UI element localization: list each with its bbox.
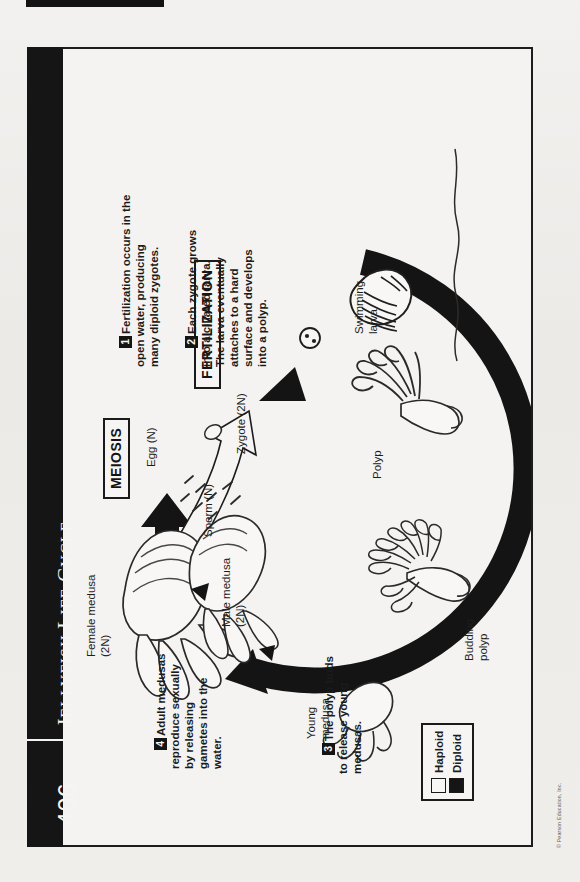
label-zygote: Zygote (2N) (235, 393, 249, 454)
legend-label-diploid: Diploid (451, 734, 463, 773)
label-young-medusa: Young medusa (305, 698, 332, 739)
gamete-release-marker-2 (259, 645, 275, 661)
step-number-4: 4 (154, 738, 167, 750)
legend-row-diploid: Diploid (449, 731, 464, 793)
haploid-swatch (431, 778, 446, 793)
step-text-2: Each zygote grows into a ciliated larva.… (186, 230, 268, 367)
polyp-illustration (352, 346, 462, 434)
label-male-medusa: Male medusa (2N) (220, 558, 247, 627)
jellyfish-life-cycle-diagram: MEIOSIS FERTILIZATION 1Fertilization occ… (63, 49, 531, 845)
label-egg: Egg (N) (145, 427, 159, 467)
fertilization-arrowhead (259, 367, 306, 401)
zygote-cell (300, 328, 320, 348)
step-callout-4: 4Adult medusas reproduce sexually by rel… (140, 654, 238, 769)
diploid-swatch (449, 778, 464, 793)
title-spine-bar (27, 47, 63, 847)
copyright-notice: © Pearson Education, Inc. (556, 783, 562, 848)
label-polyp: Polyp (371, 450, 385, 479)
step-callout-1: 1Fertilization occurs in the open water,… (105, 195, 175, 367)
phase-label-meiosis: MEIOSIS (103, 418, 130, 499)
step-text-4: Adult medusas reproduce sexually by rele… (155, 654, 223, 769)
scan-edge-artifact (26, 0, 164, 7)
step-number-1: 1 (119, 336, 132, 348)
label-budding-polyp: Budding polyp (463, 619, 490, 661)
legend-label-haploid: Haploid (433, 731, 445, 773)
step-number-2: 2 (185, 336, 198, 348)
step-number-3: 3 (322, 743, 335, 755)
budding-polyp-illustration (369, 520, 470, 612)
legend-box: Haploid Diploid (421, 723, 474, 801)
label-swimming-larva: Swimming larva (353, 281, 380, 334)
label-sperm: Sperm (N) (202, 484, 216, 537)
legend-row-haploid: Haploid (431, 731, 446, 793)
scanned-page: 406 JELLYFISH LIFE CYCLE (0, 0, 580, 882)
label-female-medusa: Female medusa (2N) (85, 575, 112, 657)
title-spine-divider (27, 739, 63, 741)
step-callout-2: 2Each zygote grows into a ciliated larva… (171, 230, 283, 367)
